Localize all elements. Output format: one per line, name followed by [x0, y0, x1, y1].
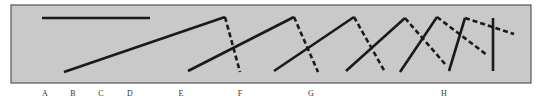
label-e: E: [178, 89, 183, 98]
label-c: C: [98, 89, 104, 98]
label-h: H: [441, 89, 447, 98]
label-b: B: [70, 89, 76, 98]
figure-canvas: [0, 0, 538, 108]
label-g: G: [308, 89, 314, 98]
label-f: F: [238, 89, 243, 98]
line-figure: A B C D E F G H: [0, 0, 538, 108]
label-a: A: [42, 89, 48, 98]
label-d: D: [127, 89, 133, 98]
